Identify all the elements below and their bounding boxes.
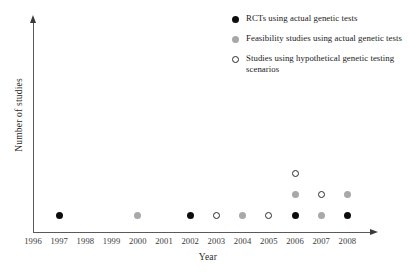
- data-point-2007-gray: [318, 212, 325, 219]
- legend-item-label: Feasibility studies using actual genetic…: [246, 33, 402, 44]
- legend-item-label: RCTs using actual genetic tests: [246, 13, 357, 24]
- data-point-2008-gray: [344, 191, 351, 198]
- y-axis-title: Number of studies: [14, 50, 24, 180]
- data-point-2006-gray: [292, 191, 299, 198]
- x-axis-arrow-icon: [370, 229, 378, 235]
- x-axis-title: Year: [0, 252, 416, 262]
- data-point-2006-filled: [292, 212, 299, 219]
- legend-item-label: Studies using hypothetical genetic testi…: [246, 53, 416, 75]
- legend-marker-gray-icon: [232, 36, 239, 43]
- x-axis-line: [33, 232, 372, 233]
- data-point-2005-open: [265, 212, 272, 219]
- scatter-chart: Number of studies Year 19961997199819992…: [0, 0, 416, 274]
- y-axis-line: [33, 22, 34, 232]
- data-point-2000-gray: [134, 212, 141, 219]
- data-point-1997-filled: [56, 212, 63, 219]
- data-point-2003-open: [213, 212, 220, 219]
- data-point-2002-filled: [187, 212, 194, 219]
- legend-item-3: Studies using hypothetical genetic testi…: [232, 53, 416, 75]
- data-point-2004-gray: [239, 212, 246, 219]
- data-point-2006-open: [292, 170, 299, 177]
- legend-marker-filled-icon: [232, 16, 239, 23]
- chart-legend: RCTs using actual genetic testsFeasibili…: [232, 13, 416, 84]
- legend-marker-open-icon: [232, 56, 239, 63]
- y-axis-arrow-icon: [30, 15, 36, 23]
- data-point-2007-open: [318, 191, 325, 198]
- legend-item-2: Feasibility studies using actual genetic…: [232, 33, 416, 44]
- x-tick-label-2008: 2008: [330, 236, 364, 246]
- data-point-2008-filled: [344, 212, 351, 219]
- legend-item-1: RCTs using actual genetic tests: [232, 13, 416, 24]
